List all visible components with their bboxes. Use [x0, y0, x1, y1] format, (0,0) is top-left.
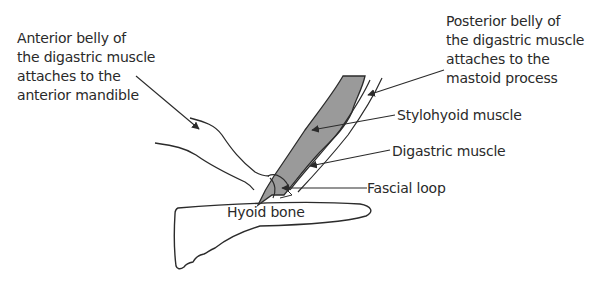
anterior-belly-upper-line — [190, 118, 269, 176]
posterior-belly-label: Posterior belly of the digastric muscle … — [446, 12, 584, 88]
hyoid-bone-label: Hyoid bone — [227, 203, 305, 222]
anterior-belly-lower-line — [155, 143, 254, 190]
digastric-anatomy-diagram: Anterior belly of the digastric muscle a… — [0, 0, 592, 283]
anterior-belly-label: Anterior belly of the digastric muscle a… — [17, 29, 155, 105]
fascial-loop-label: Fascial loop — [367, 179, 446, 198]
digastric-label: Digastric muscle — [392, 142, 506, 161]
stylohyoid-label: Stylohyoid muscle — [397, 106, 522, 125]
